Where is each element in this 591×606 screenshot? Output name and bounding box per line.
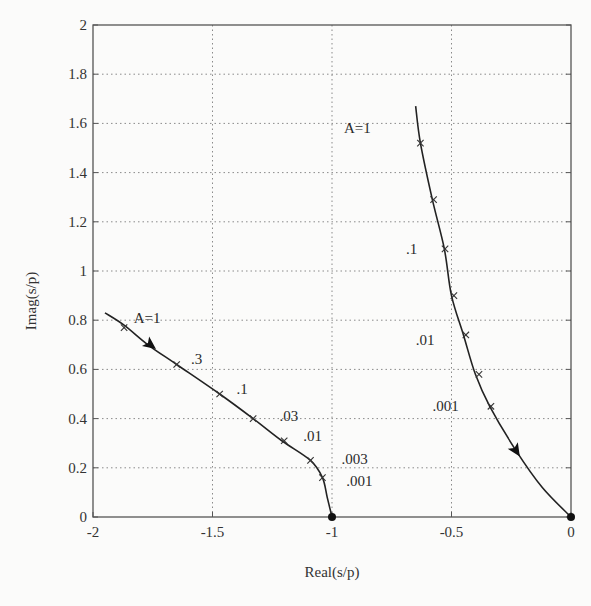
x-tick-label: -1 [326, 524, 339, 540]
y-tick-label: 0.2 [68, 460, 87, 476]
y-tick-label: 0.4 [68, 411, 87, 427]
direction-arrow-icon [508, 442, 525, 459]
annotation-label: A=1 [134, 310, 161, 326]
x-marker [476, 371, 482, 377]
y-tick-label: 1.4 [68, 165, 87, 181]
y-tick-label: 1 [80, 263, 88, 279]
x-tick-label: 0 [567, 524, 575, 540]
root-locus-chart: -2-1.5-1-0.50 00.20.40.60.811.21.41.61.8… [0, 0, 591, 606]
annotations: A=1.3.1.03.01.003.001A=1.1.01.001 [134, 120, 459, 489]
annotation-label: A=1 [344, 120, 371, 136]
y-tick-label: 1.6 [68, 115, 87, 131]
series [105, 106, 575, 521]
x-tick-label: -0.5 [440, 524, 464, 540]
x-tick-label: -1.5 [201, 524, 225, 540]
series-locus-right [416, 106, 575, 521]
x-marker [307, 457, 313, 463]
grid [93, 25, 571, 517]
x-marker [173, 361, 179, 367]
locus-curve [416, 106, 571, 517]
annotation-label: .1 [236, 381, 247, 397]
series-locus-left [105, 313, 336, 521]
endpoint-dot [328, 513, 336, 521]
annotation-label: .03 [279, 408, 298, 424]
annotation-label: .001 [432, 398, 458, 414]
x-marker [216, 391, 222, 397]
y-axis-label: Imag(s/p) [23, 272, 40, 330]
annotation-label: .001 [346, 473, 372, 489]
y-tick-label: 0.6 [68, 361, 87, 377]
annotation-label: .01 [416, 332, 435, 348]
annotation-label: .003 [342, 451, 368, 467]
x-tick-label: -2 [87, 524, 100, 540]
annotation-label: .1 [406, 241, 417, 257]
endpoint-dot [567, 513, 575, 521]
y-tick-label: 0.8 [68, 312, 87, 328]
y-tick-label: 0 [80, 509, 88, 525]
y-tick-label: 1.8 [68, 66, 87, 82]
x-axis-label: Real(s/p) [305, 564, 360, 581]
annotation-label: .01 [303, 428, 322, 444]
annotation-label: .3 [191, 351, 202, 367]
y-tick-label: 2 [80, 17, 88, 33]
y-tick-label: 1.2 [68, 214, 87, 230]
x-marker [319, 474, 325, 480]
